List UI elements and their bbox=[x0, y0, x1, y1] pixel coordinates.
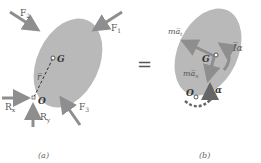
point-o-b bbox=[194, 95, 198, 99]
panel-a: F2 F1 F3 Rx Ry G O r̅ (a) bbox=[2, 7, 122, 160]
label-o-a: O bbox=[38, 96, 46, 106]
label-f3: F3 bbox=[79, 102, 89, 113]
label-o-b: O bbox=[186, 88, 194, 98]
label-g-a: G bbox=[57, 54, 65, 64]
caption-a: (a) bbox=[38, 151, 49, 160]
kinetics-diagram: F2 F1 F3 Rx Ry G O r̅ (a) = ma̅t ma̅n I̅… bbox=[0, 0, 261, 163]
point-g-b bbox=[214, 53, 218, 57]
caption-b: (b) bbox=[199, 151, 210, 160]
point-o-a bbox=[32, 96, 35, 99]
label-ma-t: ma̅t bbox=[168, 27, 183, 37]
panel-b: ma̅t ma̅n I̅α α G O (b) bbox=[161, 0, 254, 160]
label-f2: F2 bbox=[20, 8, 30, 19]
label-i-alpha: I̅α bbox=[232, 42, 243, 53]
alpha-dashed-curve bbox=[185, 100, 210, 106]
point-g-a bbox=[51, 56, 55, 60]
equals-sign: = bbox=[137, 54, 152, 75]
label-rx: Rx bbox=[5, 102, 16, 113]
label-f1: F1 bbox=[111, 23, 121, 34]
label-alpha: α bbox=[215, 85, 222, 95]
label-ry: Ry bbox=[40, 112, 51, 124]
label-g-b: G bbox=[202, 54, 210, 64]
